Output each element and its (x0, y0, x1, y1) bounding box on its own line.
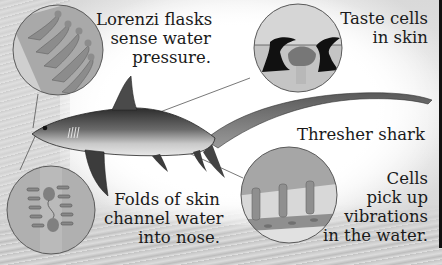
dorsal-fin (112, 76, 137, 110)
inset-lorenzi-flasks (10, 0, 110, 110)
thresher-shark-diagram: Lorenzi flasks sense water pressure. Tas… (0, 0, 442, 265)
label-species-name: Thresher shark (290, 125, 425, 144)
shark-body (32, 108, 215, 156)
inset-nose-folds (7, 166, 95, 254)
label-lorenzi-flasks: Lorenzi flasks sense water pressure. (96, 10, 211, 67)
label-nose-folds: Folds of skin channel water into nose. (104, 190, 220, 247)
label-vibration-cells: Cells pick up vibrations in the water. (315, 169, 428, 245)
label-taste-cells: Taste cells in skin (330, 9, 428, 47)
